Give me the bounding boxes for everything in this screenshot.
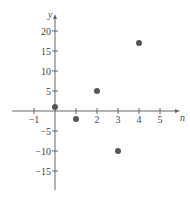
data-point [136, 40, 142, 46]
y-tick-label: 20 [41, 26, 51, 37]
y-tick-label: −10 [35, 146, 51, 157]
y-axis-arrow-icon [53, 14, 57, 19]
x-tick-label: 2 [95, 114, 100, 125]
y-tick-label: 5 [46, 86, 51, 97]
data-point [94, 88, 100, 94]
data-point [115, 148, 121, 154]
data-point [73, 116, 79, 122]
x-tick-label: −1 [29, 114, 40, 125]
data-point [52, 104, 58, 110]
y-tick-label: 10 [41, 66, 51, 77]
x-axis-label: n [180, 112, 185, 123]
y-tick-label: 15 [41, 46, 51, 57]
x-tick-label: 5 [158, 114, 163, 125]
scatter-chart: ny−123452015105−5−10−15 [0, 0, 190, 200]
y-tick-label: −5 [40, 126, 51, 137]
x-tick-label: 4 [137, 114, 142, 125]
x-tick-label: 3 [116, 114, 121, 125]
y-tick-label: −15 [35, 166, 51, 177]
y-axis-label: y [47, 9, 53, 20]
